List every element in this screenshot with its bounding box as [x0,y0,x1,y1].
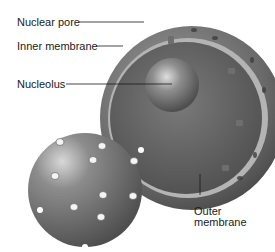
label-inner-membrane: Inner membrane [17,40,98,52]
label-nuclear-pore: Nuclear pore [17,16,80,28]
label-outer-membrane-line2: membrane [194,216,247,228]
nucleus-diagram: Nuclear pore Inner membrane Nucleolus Ou… [0,0,275,252]
nucleus-illustration [0,0,275,252]
label-nucleolus: Nucleolus [17,78,65,90]
